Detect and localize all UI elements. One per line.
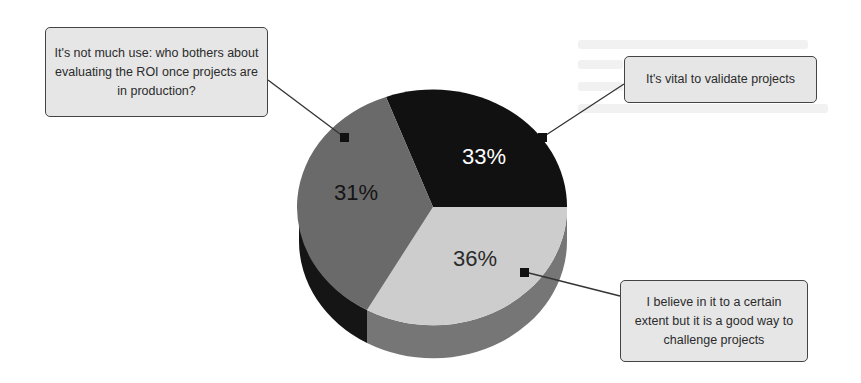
leader-line-vital bbox=[543, 84, 624, 137]
callout-vital: It's vital to validate projects bbox=[624, 56, 817, 103]
pct-label-challenge: 36% bbox=[453, 246, 497, 271]
leader-line-not-much-use bbox=[268, 80, 344, 137]
marker-vital bbox=[538, 133, 547, 142]
marker-challenge bbox=[520, 268, 529, 277]
callout-challenge: I believe in it to a certain extent but … bbox=[620, 280, 808, 362]
pct-label-vital: 33% bbox=[462, 144, 506, 169]
pct-label-not-much-use: 31% bbox=[334, 180, 378, 205]
marker-not-much-use bbox=[340, 133, 349, 142]
callout-not-much-use: It's not much use: who bothers about eva… bbox=[45, 27, 268, 117]
